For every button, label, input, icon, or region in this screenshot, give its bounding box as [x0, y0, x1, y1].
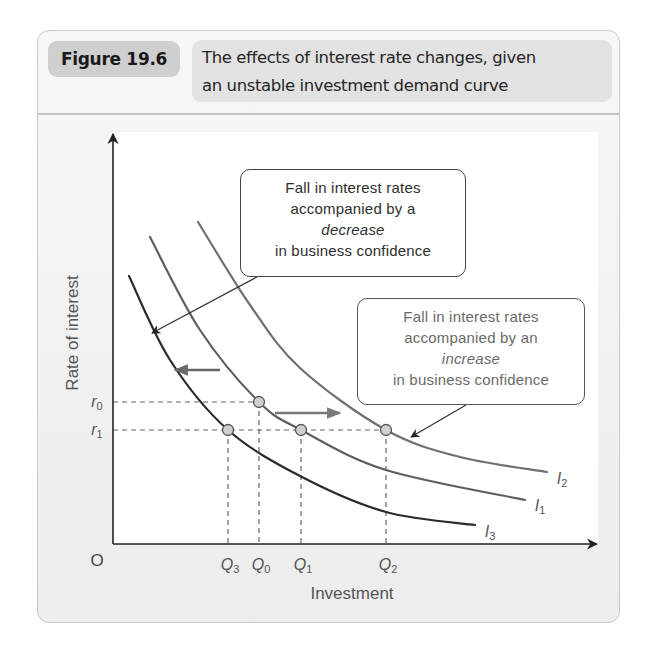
- dashed-guides: [113, 402, 386, 544]
- x-tick-Q0: Q0: [252, 556, 271, 575]
- pointer-arrow-increase: [411, 405, 466, 437]
- callout-line: Fall in interest rates: [358, 306, 584, 327]
- y-tick-r0: r0: [91, 393, 102, 412]
- callout-line-emphasis: decrease: [241, 219, 465, 240]
- y-tick-r1: r1: [91, 421, 102, 440]
- callout-line: accompanied by an: [358, 327, 584, 348]
- callout-line: Fall in interest rates: [241, 177, 465, 198]
- x-tick-Q2: Q2: [379, 556, 398, 575]
- equilibrium-point: [254, 397, 265, 408]
- equilibrium-point: [296, 425, 307, 436]
- origin-label: O: [90, 551, 103, 571]
- callout-line: in business confidence: [358, 369, 584, 390]
- y-axis-label: Rate of interest: [63, 275, 83, 390]
- curve-label-i1: I1: [535, 497, 546, 516]
- equilibrium-point: [381, 425, 392, 436]
- callout-line: in business confidence: [241, 240, 465, 261]
- equilibrium-point: [223, 425, 234, 436]
- x-axis-label: Investment: [310, 584, 393, 604]
- callout-decrease-confidence: Fall in interest rates accompanied by a …: [240, 169, 466, 277]
- curve-label-i2: I2: [557, 470, 568, 489]
- x-tick-Q1: Q1: [294, 556, 313, 575]
- callout-increase-confidence: Fall in interest rates accompanied by an…: [357, 298, 585, 405]
- callout-line-emphasis: increase: [358, 348, 584, 369]
- pointer-arrow-decrease: [152, 277, 257, 333]
- x-tick-Q3: Q3: [221, 556, 240, 575]
- curve-label-i3: I3: [485, 523, 496, 542]
- callout-line: accompanied by a: [241, 198, 465, 219]
